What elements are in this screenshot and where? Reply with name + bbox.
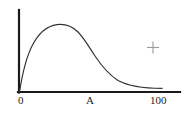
distribution-curve <box>20 24 163 92</box>
plus-marker-icon <box>147 42 159 54</box>
x-axis-tick-label-a: A <box>86 95 94 106</box>
x-axis-tick-label-origin: 0 <box>18 95 24 106</box>
chart-figure: 0 A 100 <box>0 0 182 114</box>
x-axis-tick-label-maximum: 100 <box>150 95 167 106</box>
